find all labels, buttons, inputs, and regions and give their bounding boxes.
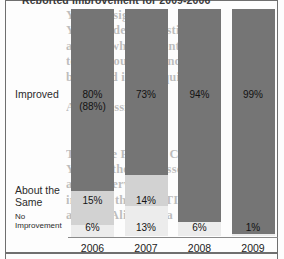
value-improved-secondary-2006: (88%): [71, 101, 114, 113]
row-label-about-the-same: About the Same: [15, 184, 73, 208]
stacked-bar-chart: Your Assignment You decide to investigat…: [6, 6, 277, 252]
x-tick-label-2008: 2008: [178, 242, 221, 254]
value-label-no-improvement-2008: 6%: [178, 222, 221, 233]
page-frame-right: [277, 0, 278, 259]
x-axis-line: [68, 237, 278, 238]
bar-2006[interactable]: 80%(88%)15%6%: [71, 9, 114, 236]
value-improved-2007: 73%: [136, 89, 156, 100]
value-label-improved-2006: 80%(88%): [71, 89, 114, 113]
value-label-no-improvement-2006: 6%: [71, 222, 114, 233]
value-label-about-the-same-2007: 14%: [125, 195, 168, 206]
value-label-improved-2009: 99%: [232, 89, 275, 101]
value-label-about-the-same-2006: 15%: [71, 195, 114, 206]
value-improved-2009: 99%: [243, 89, 263, 100]
chart-title: Reported Improvement for 2009-2006: [22, 0, 222, 4]
x-tick-label-2006: 2006: [71, 242, 114, 254]
value-label-improved-2007: 73%: [125, 89, 168, 101]
bar-2009[interactable]: 99%1%: [232, 9, 275, 236]
row-label-improved: Improved: [15, 88, 59, 100]
scanned-page: Reported Improvement for 2009-2006 Your …: [0, 0, 284, 259]
bar-2008[interactable]: 94%6%: [178, 9, 221, 236]
segment-no-improvement-2009: [232, 234, 275, 236]
bar-2007[interactable]: 73%14%13%: [125, 9, 168, 236]
value-label-no-improvement-2007: 13%: [125, 222, 168, 233]
value-improved-2006: 80%: [82, 89, 102, 100]
segment-improved-2009: [232, 9, 275, 234]
row-label-no-improvement: No Improvement: [15, 213, 75, 231]
value-label-improved-2008: 94%: [178, 89, 221, 101]
value-label-no-improvement-2009: 1%: [232, 222, 275, 233]
value-improved-2008: 94%: [189, 89, 209, 100]
segment-improved-2008: [178, 9, 221, 222]
x-tick-label-2007: 2007: [125, 242, 168, 254]
x-tick-label-2009: 2009: [232, 242, 275, 254]
